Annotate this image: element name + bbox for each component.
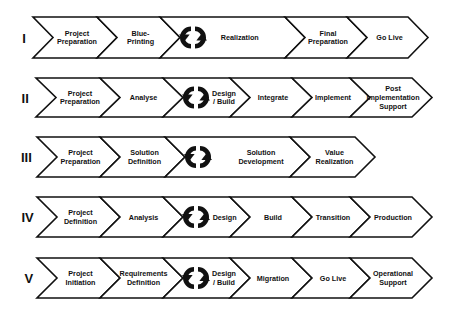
methodology-row-2: IIProjectPreparationAnalyseDesign/ Build… — [22, 78, 432, 117]
phase-label: Preparation — [308, 37, 348, 46]
phase-label: Definition — [128, 157, 161, 166]
phase-label: Preparation — [57, 37, 97, 46]
methodology-row-3: IIIProjectPreparationSolutionDefinitionS… — [21, 137, 375, 177]
methodology-row-5: VProjectInitiationRequirementsDefinition… — [24, 258, 432, 298]
phase-label: Realization — [316, 157, 354, 166]
methodology-phase-diagram: IProjectPreparationBlue-PrintingRealizat… — [0, 0, 456, 319]
phase-label: / Build — [213, 278, 235, 287]
phase-label: Support — [379, 278, 407, 287]
phase-label: Design — [213, 213, 237, 222]
phase-label: Go Live — [320, 274, 346, 283]
row-numeral: III — [21, 150, 32, 165]
row-numeral: IV — [21, 210, 34, 225]
phase-label: Transition — [316, 213, 350, 222]
phase-step: Realization — [160, 17, 305, 58]
phase-label: Integrate — [258, 93, 288, 102]
phase-label: Preparation — [61, 157, 101, 166]
methodology-row-4: IVProjectDefinitionAnalysisDesignBuildTr… — [21, 197, 432, 237]
phase-label: Printing — [127, 37, 154, 46]
phase-label: Definition — [127, 278, 160, 287]
phase-step: SolutionDevelopment — [165, 137, 310, 177]
phase-label: Development — [238, 157, 284, 166]
phase-label: Build — [264, 213, 282, 222]
phase-label: / Build — [213, 97, 235, 106]
row-numeral: II — [22, 91, 29, 106]
row-numeral: V — [24, 271, 33, 286]
phase-label: Support — [379, 102, 407, 111]
row-numeral: I — [22, 31, 26, 46]
phase-label: Definition — [64, 217, 97, 226]
methodology-row-1: IProjectPreparationBlue-PrintingRealizat… — [22, 17, 428, 58]
phase-label: Initiation — [66, 278, 96, 287]
phase-label: Preparation — [60, 97, 100, 106]
phase-label: Go Live — [376, 33, 402, 42]
phase-label: Implement — [315, 93, 352, 102]
phase-label: Analysis — [129, 213, 159, 222]
phase-label: Migration — [257, 274, 289, 283]
phase-label: Realization — [221, 33, 259, 42]
phase-label: Production — [374, 213, 412, 222]
phase-label: Analyse — [130, 93, 158, 102]
